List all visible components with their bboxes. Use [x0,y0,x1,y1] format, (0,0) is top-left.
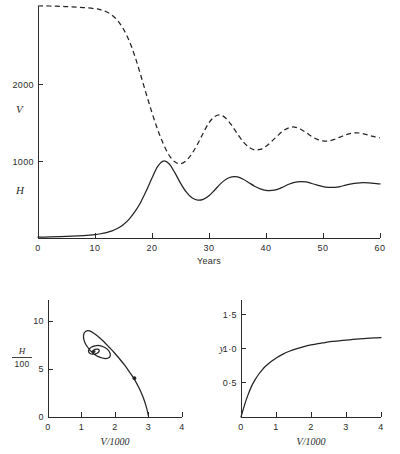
phase-ytick-0: 0 [39,412,44,422]
phase-x-ticks [48,412,182,417]
timeseries-ytick-2000: 2000 [12,80,34,90]
trajectory-point-marker [133,376,137,380]
response-xtick-4: 4 [378,422,383,432]
phase-xtick-0: 0 [45,422,50,432]
figure-root: 1000 2000 0 10 20 30 40 50 60 Years V H [0,0,400,454]
timeseries-xtick-60: 60 [375,243,386,253]
response-ytick-10: 1·0 [223,344,237,354]
phase-xtick-3: 3 [146,422,151,432]
timeseries-xtick-0: 0 [35,243,40,253]
timeseries-xlabel: Years [197,256,221,266]
timeseries-xtick-10: 10 [90,243,101,253]
series-label-v: V [16,103,24,115]
panel-functional-response: 0·5 1·0 1·5 0 1 2 3 4 V/1000 y [219,300,384,447]
phase-ylabel-denominator: 100 [14,359,29,369]
timeseries-ytick-1000: 1000 [12,157,34,167]
timeseries-y-ticks [38,85,43,162]
curve-phase-trajectory [83,331,148,416]
response-axes [241,300,381,417]
curve-functional-response [241,338,381,417]
phase-xtick-2: 2 [112,422,117,432]
panel-phase-plane: 0 5 10 0 1 2 3 4 V/1000 H 100 [12,300,185,447]
phase-ylabel-fraction: H 100 [12,346,32,369]
response-ytick-05: 0·5 [223,378,237,388]
response-xtick-3: 3 [343,422,348,432]
response-x-ticks [241,412,381,417]
phase-y-ticks [48,321,53,417]
timeseries-xtick-40: 40 [261,243,272,253]
phase-ylabel-numerator: H [18,346,26,356]
series-label-h: H [15,184,25,196]
response-ylabel: y [219,343,225,354]
scientific-figure: 1000 2000 0 10 20 30 40 50 60 Years V H [0,0,400,454]
response-xtick-0: 0 [238,422,243,432]
phase-axes [48,300,182,417]
response-xtick-2: 2 [308,422,313,432]
response-y-ticks [241,315,246,383]
phase-xtick-4: 4 [179,422,184,432]
response-xtick-1: 1 [273,422,278,432]
phase-ytick-10: 10 [33,316,44,326]
response-ytick-15: 1·5 [223,310,237,320]
response-xlabel: V/1000 [297,436,326,447]
phase-xlabel: V/1000 [101,436,130,447]
curve-h-solid [38,161,380,237]
phase-xtick-1: 1 [79,422,84,432]
timeseries-xtick-20: 20 [147,243,158,253]
timeseries-xtick-50: 50 [318,243,329,253]
timeseries-xtick-30: 30 [204,243,215,253]
phase-ytick-5: 5 [39,364,44,374]
curve-v-dashed [38,6,380,164]
panel-timeseries: 1000 2000 0 10 20 30 40 50 60 Years V H [12,6,385,266]
